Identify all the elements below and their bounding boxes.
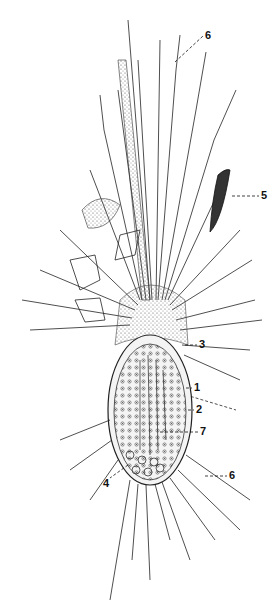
label-5: 5 — [261, 190, 267, 201]
test-inner-wall — [114, 344, 186, 480]
label-2: 2 — [196, 404, 202, 415]
label-6-upper: 6 — [205, 30, 211, 41]
label-6-lower: 6 — [229, 470, 235, 481]
label-7: 7 — [200, 426, 206, 437]
label-4: 4 — [103, 478, 109, 489]
organism-illustration — [0, 0, 277, 615]
pseudopod-blob — [82, 199, 120, 229]
label-1: 1 — [194, 382, 200, 393]
label-3: 3 — [199, 339, 205, 350]
prey-organism — [210, 170, 230, 232]
